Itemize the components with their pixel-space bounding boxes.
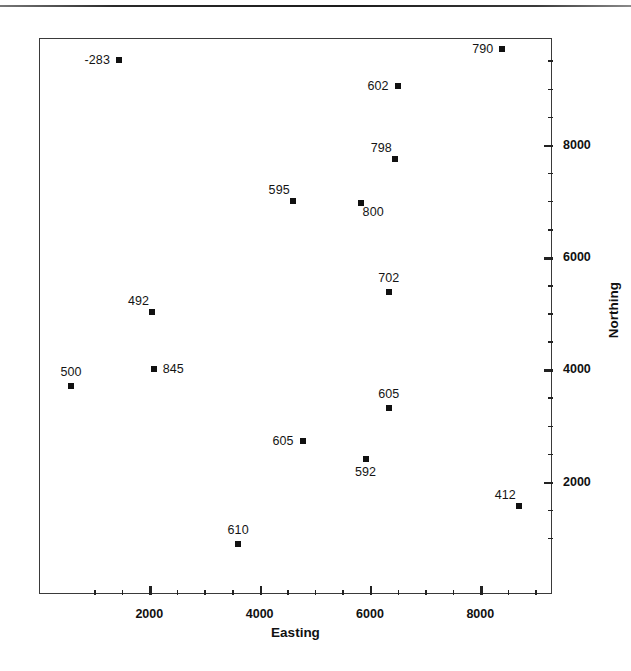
- data-point-marker[interactable]: [151, 366, 157, 372]
- data-point-label: 605: [273, 434, 294, 448]
- y-tick-minor: [548, 397, 553, 399]
- data-point-marker[interactable]: [386, 289, 392, 295]
- data-point-marker[interactable]: [499, 46, 505, 52]
- y-tick-minor: [548, 510, 553, 512]
- x-tick-label: 4000: [246, 607, 274, 621]
- y-tick-minor: [548, 173, 553, 175]
- data-point-marker[interactable]: [363, 456, 369, 462]
- y-tick-major: [544, 482, 553, 485]
- y-axis-title: Northing: [606, 282, 621, 338]
- data-point-label: 605: [378, 387, 399, 401]
- x-tick-minor: [425, 590, 427, 595]
- data-point-marker[interactable]: [386, 405, 392, 411]
- y-tick-label: 6000: [563, 250, 591, 264]
- x-tick-label: 6000: [356, 607, 384, 621]
- x-tick-label: 2000: [135, 607, 163, 621]
- y-tick-minor: [548, 454, 553, 456]
- x-tick-major: [370, 586, 372, 595]
- data-point-label: 412: [495, 488, 516, 502]
- x-tick-label: 8000: [466, 607, 494, 621]
- data-point-label: 790: [472, 42, 493, 56]
- y-tick-minor: [548, 229, 553, 231]
- data-point-label: 845: [163, 362, 184, 376]
- data-point-label: 798: [371, 141, 392, 155]
- data-point-marker[interactable]: [395, 83, 401, 89]
- data-point-label: 800: [363, 205, 384, 219]
- data-point-marker[interactable]: [392, 156, 398, 162]
- data-point-marker[interactable]: [68, 383, 74, 389]
- y-tick-major: [544, 369, 553, 372]
- data-point-label: 602: [367, 79, 388, 93]
- data-point-marker[interactable]: [149, 309, 155, 315]
- data-point-label: 492: [128, 294, 149, 308]
- y-tick-minor: [548, 538, 553, 540]
- y-tick-minor: [548, 341, 553, 343]
- y-tick-minor: [548, 89, 553, 91]
- x-tick-major: [149, 586, 151, 595]
- data-point-label: 610: [228, 523, 249, 537]
- y-tick-minor: [548, 60, 553, 62]
- y-tick-major: [544, 145, 553, 148]
- data-point-label: 702: [378, 271, 399, 285]
- y-tick-minor: [548, 285, 553, 287]
- x-tick-minor: [315, 590, 317, 595]
- scatter-plot-figure: -283790602798595800702492845500605605592…: [0, 0, 631, 671]
- y-tick-minor: [548, 117, 553, 119]
- x-tick-major: [260, 586, 262, 595]
- data-point-marker[interactable]: [116, 57, 122, 63]
- x-tick-minor: [342, 590, 344, 595]
- data-point-label: 595: [269, 183, 290, 197]
- x-tick-minor: [287, 590, 289, 595]
- y-tick-label: 8000: [563, 138, 591, 152]
- y-tick-label: 2000: [563, 475, 591, 489]
- x-tick-minor: [398, 590, 400, 595]
- y-tick-minor: [548, 201, 553, 203]
- data-point-marker[interactable]: [300, 438, 306, 444]
- x-tick-minor: [232, 590, 234, 595]
- x-axis-title-text: Easting: [271, 625, 320, 640]
- x-tick-minor: [122, 590, 124, 595]
- y-tick-minor: [548, 426, 553, 428]
- x-tick-minor: [453, 590, 455, 595]
- plot-area: -283790602798595800702492845500605605592…: [39, 38, 552, 594]
- y-tick-major: [544, 257, 553, 260]
- data-point-marker[interactable]: [516, 503, 522, 509]
- data-point-label: -283: [85, 53, 110, 67]
- x-tick-minor: [508, 590, 510, 595]
- y-tick-label: 4000: [563, 362, 591, 376]
- x-axis-title: Easting: [0, 625, 631, 640]
- data-point-marker[interactable]: [290, 198, 296, 204]
- x-tick-major: [480, 586, 482, 595]
- y-tick-minor: [548, 313, 553, 315]
- data-point-label: 500: [60, 365, 81, 379]
- data-point-marker[interactable]: [235, 541, 241, 547]
- data-point-label: 592: [355, 465, 376, 479]
- x-tick-minor: [177, 590, 179, 595]
- x-tick-minor: [94, 590, 96, 595]
- x-tick-minor: [204, 590, 206, 595]
- x-tick-minor: [535, 590, 537, 595]
